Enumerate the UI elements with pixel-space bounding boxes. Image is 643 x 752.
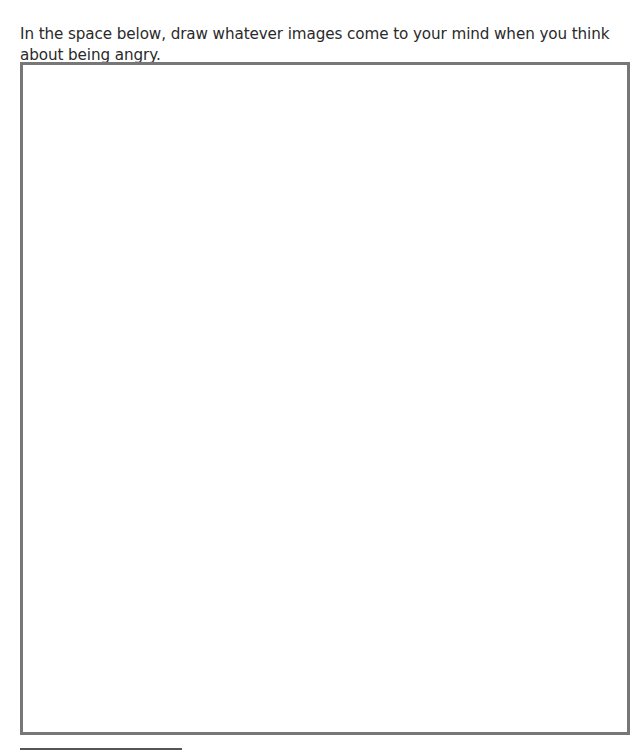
worksheet-prompt: In the space below, draw whatever images… [20,24,632,66]
drawing-area[interactable] [20,62,630,735]
footnote-divider [20,748,182,750]
